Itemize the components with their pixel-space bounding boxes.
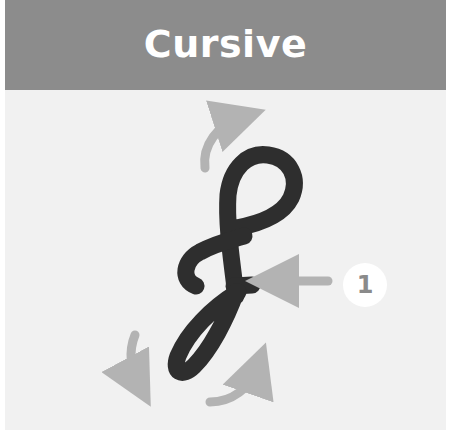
bottom-left-curved-arrow-icon: [131, 335, 138, 383]
step-number-badge: 1: [343, 263, 387, 307]
cursive-f-glyph: [176, 155, 294, 373]
cursive-f-illustration: [0, 0, 461, 438]
step-number: 1: [357, 273, 374, 297]
bottom-right-curved-arrow-icon: [210, 368, 257, 402]
